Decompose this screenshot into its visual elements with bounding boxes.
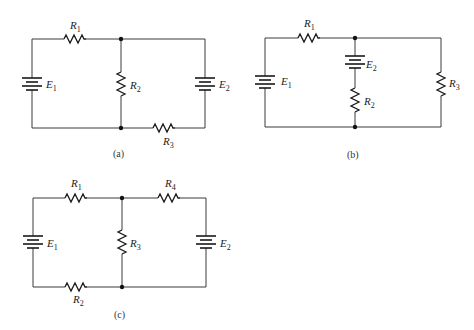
- circuit-c-wires: [33, 198, 206, 287]
- label-e2-a: E2: [218, 78, 230, 93]
- label-r1-a: R1: [69, 19, 81, 34]
- battery-e1-a: [22, 78, 42, 90]
- resistor-r3-a: [153, 124, 175, 132]
- resistor-r1-b: [298, 34, 320, 42]
- node-top-a: [119, 37, 123, 41]
- circuit-c: R1 R4 R2 R3 E1 E2 (c): [23, 177, 231, 321]
- resistor-r3-b: [437, 72, 445, 96]
- label-e1-b: E1: [280, 75, 292, 90]
- label-r3-a: R3: [162, 135, 174, 150]
- resistor-r3-c: [118, 230, 126, 254]
- circuit-b: R1 R2 R3 E1 E2 (b): [255, 17, 460, 161]
- battery-e2-a: [195, 78, 215, 90]
- caption-b: (b): [347, 149, 359, 161]
- circuit-a: R1 R2 R3 E1 E2 (a): [22, 19, 230, 160]
- node-top-c: [120, 196, 124, 200]
- resistor-r1-a: [64, 35, 86, 43]
- resistor-r1-c: [65, 194, 87, 202]
- caption-a: (a): [113, 148, 124, 160]
- node-bottom-c: [120, 285, 124, 289]
- label-e2-c: E2: [219, 237, 231, 252]
- label-e2-b: E2: [365, 58, 377, 73]
- node-bottom-b: [353, 125, 357, 129]
- battery-e1-c: [23, 236, 43, 248]
- node-bottom-a: [119, 126, 123, 130]
- node-top-b: [353, 36, 357, 40]
- battery-e1-b: [255, 76, 275, 88]
- battery-e2-c: [196, 236, 216, 248]
- label-r3-c: R3: [129, 237, 141, 252]
- label-r2-b: R2: [363, 95, 375, 110]
- label-r4-c: R4: [164, 177, 176, 192]
- battery-e2-b: [345, 56, 365, 68]
- circuit-figure: R1 R2 R3 E1 E2 (a) R1 R2: [0, 0, 474, 330]
- circuit-a-wires: [32, 39, 205, 128]
- label-e1-a: E1: [45, 78, 57, 93]
- label-r3-b: R3: [448, 77, 460, 92]
- label-r1-c: R1: [70, 177, 82, 192]
- resistor-r4-c: [158, 194, 180, 202]
- resistor-r2-a: [117, 72, 125, 96]
- label-r2-c: R2: [72, 293, 84, 308]
- label-r2-a: R2: [129, 79, 141, 94]
- caption-c: (c): [114, 309, 125, 321]
- label-r1-b: R1: [303, 17, 315, 32]
- resistor-r2-b: [351, 88, 359, 112]
- label-e1-c: E1: [46, 237, 58, 252]
- resistor-r2-c: [65, 283, 87, 291]
